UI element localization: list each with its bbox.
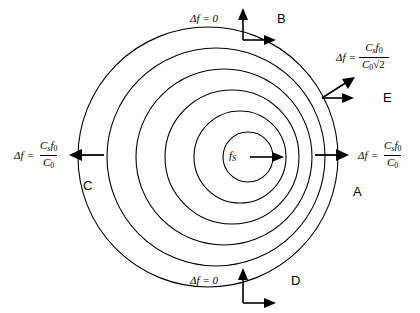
label-e: E <box>383 90 392 105</box>
right-fraction: Csf0 C0 <box>381 140 404 170</box>
right-denominator: C0 <box>384 155 401 171</box>
doppler-diagram: Δf = 0 B Δf = 0 D Δf = Csf0 C0 C Δf = Cs… <box>0 0 420 313</box>
left-equals: = <box>27 150 34 161</box>
left-numerator: Csf0 <box>37 140 60 155</box>
label-c: C <box>83 178 93 193</box>
bottom-equation: Δf = 0 <box>190 274 218 286</box>
left-direction-arrow <box>69 149 104 161</box>
right-formula: Δf = Csf0 C0 <box>358 140 404 170</box>
diagonal-formula: Δf = Csf0 C0√2 <box>336 42 389 72</box>
source-velocity-arrow <box>250 152 284 162</box>
diagonal-equals: = <box>349 52 356 63</box>
left-fraction: Csf0 C0 <box>37 140 60 170</box>
right-direction-arrow <box>315 149 349 161</box>
source-frequency-label: fS <box>229 149 236 163</box>
square-root-icon: √2 <box>373 58 386 70</box>
left-denominator: C0 <box>40 155 57 171</box>
diagonal-denominator: C0√2 <box>359 57 389 73</box>
wavefront-circle-5 <box>107 48 325 266</box>
bottom-axis-arrows <box>238 268 276 308</box>
right-numerator: Csf0 <box>381 140 404 155</box>
concentric-wavefront-circles <box>78 27 338 287</box>
diagonal-fraction: Csf0 C0√2 <box>359 42 389 72</box>
left-delta-f: Δf <box>14 150 24 161</box>
left-formula: Δf = Csf0 C0 <box>14 140 60 170</box>
right-equals: = <box>371 150 378 161</box>
label-b: B <box>277 11 286 26</box>
diagonal-delta-f: Δf <box>336 52 346 63</box>
label-a: A <box>353 184 362 199</box>
diagonal-numerator: Csf0 <box>362 42 385 57</box>
top-axis-arrows <box>238 8 276 45</box>
top-equation: Δf = 0 <box>190 12 218 24</box>
label-d: D <box>291 273 301 288</box>
diagonal-direction-arrows <box>322 77 355 103</box>
right-delta-f: Δf <box>358 150 368 161</box>
